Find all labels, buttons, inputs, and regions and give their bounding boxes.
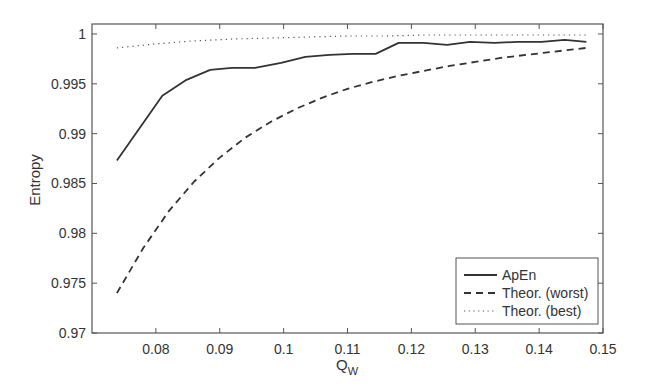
x-tick-label: 0.14 xyxy=(526,341,553,357)
x-tick-label: 0.12 xyxy=(398,341,425,357)
y-tick-label: 0.975 xyxy=(51,275,86,291)
legend-label: Theor. (worst) xyxy=(502,285,588,301)
legend: ApEn Theor. (worst) Theor. (best) xyxy=(456,258,598,324)
legend-label: ApEn xyxy=(502,267,536,283)
x-tick-label: 0.1 xyxy=(274,341,294,357)
x-tick-label: 0.09 xyxy=(206,341,233,357)
entropy-line-chart: 0.080.090.10.110.120.130.140.15 0.970.97… xyxy=(0,0,646,392)
y-axis-label: Entropy xyxy=(26,154,43,206)
x-tick-label: 0.11 xyxy=(334,341,360,357)
y-tick-label: 0.995 xyxy=(51,76,86,92)
y-tick-label: 0.97 xyxy=(59,325,86,341)
legend-label: Theor. (best) xyxy=(502,303,581,319)
x-tick-label: 0.08 xyxy=(142,341,169,357)
y-tick-label: 0.985 xyxy=(51,175,86,191)
y-tick-label: 0.98 xyxy=(59,225,86,241)
x-tick-label: 0.13 xyxy=(462,341,489,357)
x-tick-label: 0.15 xyxy=(589,341,616,357)
y-tick-label: 1 xyxy=(78,26,86,42)
y-tick-label: 0.99 xyxy=(59,126,86,142)
